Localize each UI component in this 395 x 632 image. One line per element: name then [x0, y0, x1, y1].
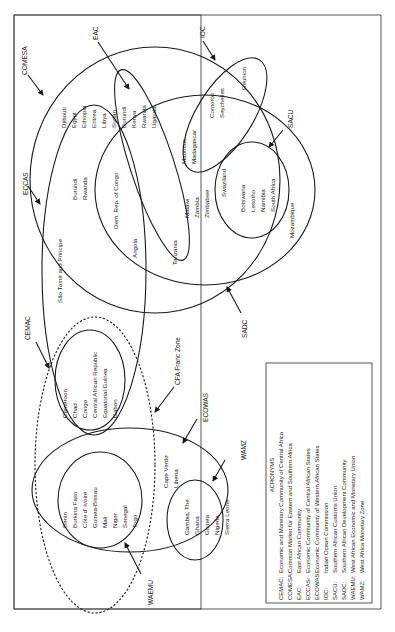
country-cote-divoire: Côte d' Ivoire: [81, 491, 88, 528]
country-burundi-eccas: Burundi: [71, 179, 78, 200]
cfa-arrow: [155, 387, 174, 412]
country-burkina-faso: Burkina Faso: [71, 491, 78, 528]
cfa-label: CFA Franc Zone: [174, 337, 181, 385]
country-senegal: Senegal: [121, 505, 128, 528]
sadc-label: SADC: [241, 319, 248, 338]
wamz-label: WAMZ: [240, 440, 247, 460]
country-comoros: Comoros: [208, 93, 215, 118]
ioc-label: IOC: [199, 26, 206, 38]
cemac-label: CEMAC: [24, 316, 31, 340]
cemac-arrow: [36, 342, 49, 368]
comesa-arrow: [28, 75, 43, 95]
country-rwanda-eac: Rwanda: [140, 105, 147, 128]
country-chad: Chad: [71, 403, 78, 418]
eccas-arrow: [28, 186, 40, 204]
country-guinea-bissau: Guinea-Bissau: [91, 487, 98, 528]
eac-ellipse: [100, 63, 204, 267]
comesa-label: COMESA: [21, 46, 28, 75]
country-equatorial-guinea: Equatorial Guinea: [101, 368, 108, 418]
country-guinea: Guinea: [203, 514, 210, 535]
legend-title: ACRONYMS: [269, 458, 275, 493]
country-ghana: Ghana: [193, 516, 200, 535]
country-malawi: Malawi: [183, 199, 190, 218]
legend-full-6: Southern African Customs Union: [332, 486, 338, 573]
waemu-label: WAEMU: [147, 580, 154, 605]
country-zambia: Zambia: [193, 197, 200, 218]
country-namibia: Namibia: [259, 189, 266, 212]
legend-full-7: Southern African Development Community: [341, 460, 347, 573]
acronyms-legend: ACRONYMS CEMAC: Economic and Monetary Co…: [266, 363, 372, 603]
legend-abbr-5: IOC:: [323, 587, 329, 600]
country-seychelles: Seychelles: [218, 88, 225, 118]
country-ethiopia: Ethiopia: [80, 105, 87, 128]
ioc-arrow: [203, 41, 215, 60]
sadc-arrow: [227, 287, 241, 313]
country-libya: Libya: [100, 113, 107, 128]
country-eritrea: Eritrea: [90, 109, 97, 128]
country-burundi-eac: Burundi: [120, 107, 127, 128]
country-benin: Benin: [61, 512, 68, 528]
legend-abbr-6: SACU:: [332, 581, 338, 600]
legend-abbr-1: COMESA:: [287, 572, 293, 600]
country-djibouti: Djibouti: [60, 107, 67, 128]
sacu-label: SACU: [287, 109, 294, 128]
eac-label: EAC: [92, 26, 99, 40]
country-car: Central African Republic: [91, 352, 98, 418]
country-reunion: Reunion: [240, 66, 247, 90]
country-sudan: Sudan: [110, 110, 117, 128]
legend-abbr-8: WAEMU:: [350, 575, 356, 600]
legend-abbr-0: CEMAC:: [278, 576, 284, 600]
country-lesotho: Lesotho: [249, 189, 256, 212]
country-south-africa: South Africa: [269, 178, 276, 212]
country-mali: Mali: [101, 517, 108, 528]
waemu-arrow: [125, 543, 141, 574]
country-drc: Dem. Rep. of Congo: [112, 172, 119, 229]
legend-full-9: West Africa Monetary Zone: [359, 500, 365, 573]
country-uganda: Uganda: [150, 106, 157, 128]
country-nigeria: Nigeria: [213, 515, 220, 535]
country-tanzania: Tanzania: [171, 240, 178, 265]
legend-abbr-7: SADC:: [341, 581, 347, 600]
country-rwanda-eccas: Rwanda: [81, 177, 88, 200]
country-egypt: Egypt: [70, 112, 77, 128]
ecowas-arrow: [183, 419, 197, 443]
country-mauritius: Mauritius: [180, 139, 187, 164]
country-botswana: Botswana: [239, 184, 246, 212]
country-niger: Niger: [111, 513, 118, 528]
country-swaziland: Swaziland: [220, 168, 227, 197]
legend-full-1: Common Market for Eastern and Southern A…: [287, 443, 293, 573]
country-togo: Togo: [131, 514, 138, 528]
ecowas-label: ECOWAS: [202, 392, 209, 422]
legend-full-8: West African Economic and Monetary Union: [350, 456, 356, 573]
country-zimbabwe: Zimbabwe: [203, 189, 210, 218]
country-liberia: Liberia: [172, 469, 179, 488]
country-angola: Angola: [131, 238, 138, 258]
regional-groupings-diagram: COMESA EAC IOC SACU SADC ECCAS CEMAC CFA…: [0, 0, 395, 632]
country-mozambique: Mozambique: [288, 202, 295, 238]
eccas-label: ECCAS: [22, 172, 29, 195]
country-gambia: Gambia, The: [183, 499, 190, 535]
eac-arrow: [98, 42, 129, 89]
country-kenya: Kenya: [130, 110, 137, 128]
country-cameroon: Cameroon: [61, 389, 68, 418]
legend-abbr-3: ECCAS:: [305, 577, 311, 600]
country-sao-tome: São Tomé and Principe: [56, 239, 63, 303]
legend-full-3: Economic Community of Central African St…: [305, 448, 311, 573]
legend-full-4: Economic Community of Western African St…: [314, 445, 320, 573]
country-gabon: Gabon: [111, 399, 118, 418]
legend-full-2: East African Community: [296, 509, 302, 573]
country-madagascar: Madagascar: [190, 130, 197, 164]
legend-abbr-4: ECOWAS:: [314, 572, 320, 600]
legend-abbr-9: WAMZ:: [359, 580, 365, 600]
legend-full-5: Indian Ocean Commission: [323, 503, 329, 573]
country-congo: Congo: [81, 399, 88, 418]
legend-abbr-2: EAC:: [296, 586, 302, 600]
legend-full-0: Economic and Monetary Community of Centr…: [278, 431, 284, 573]
country-sierra-leone: Sierra Leone: [223, 499, 230, 535]
country-cape-verde: Cape Verde: [162, 455, 169, 488]
